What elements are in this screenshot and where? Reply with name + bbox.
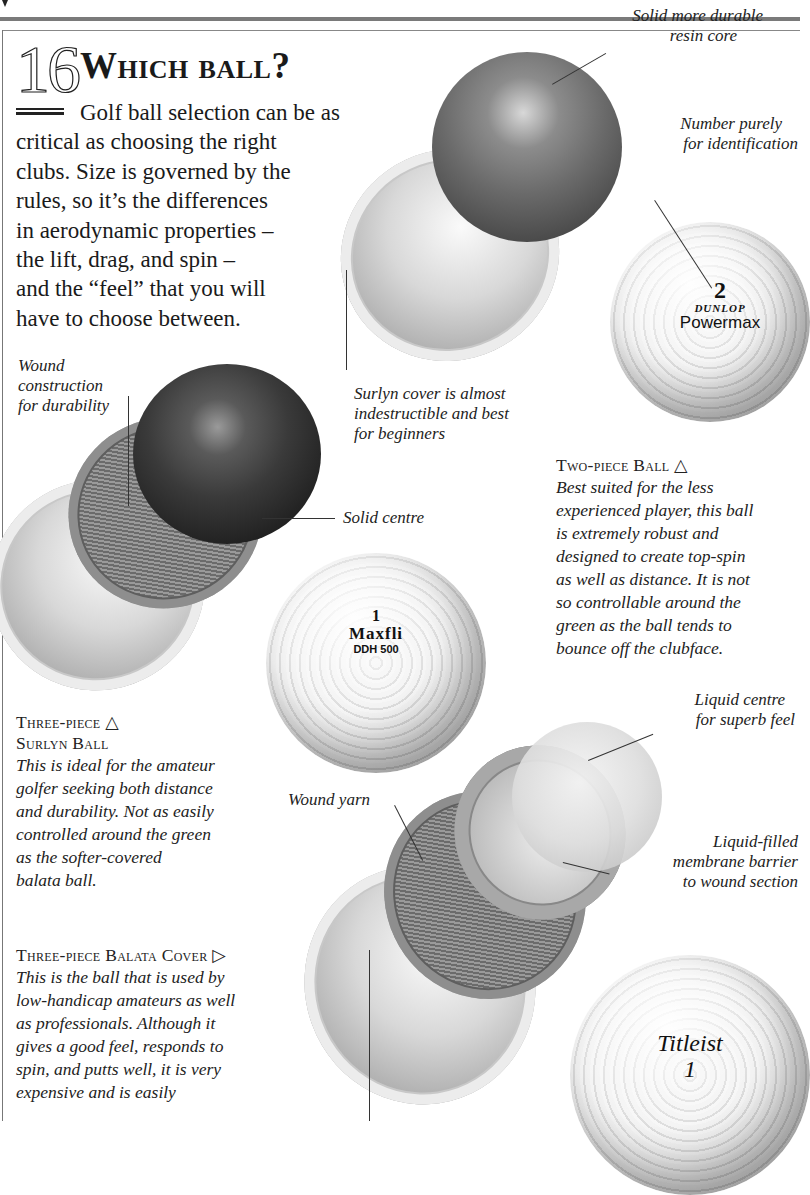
up-triangle-icon: △ (105, 712, 119, 732)
section-number: 16 (16, 38, 78, 100)
callout-number-identification: Number purely for identification (650, 114, 798, 154)
callout-solid-core: Solid more durable resin core (613, 6, 763, 46)
maxfli-ball-illustration (266, 553, 486, 773)
body-line: gives a good feel, responds to (16, 1035, 306, 1058)
dunlop-ball-print: 2 DUNLOP Powermax (660, 278, 780, 332)
body-line: bounce off the clubface. (556, 637, 800, 660)
maxfli-ball-print: 1 Maxfli DDH 500 (316, 608, 436, 655)
leader-line (128, 396, 129, 506)
body-line: golfer seeking both distance (16, 777, 286, 800)
intro-line: critical as choosing the right (16, 127, 376, 156)
two-piece-ball-description: Two-piece Ball △ Best suited for the les… (556, 455, 800, 660)
body-line: This is ideal for the amateur (16, 754, 286, 777)
callout-solid-centre: Solid centre (343, 508, 424, 528)
callout-membrane-barrier: Liquid-filled membrane barrier to wound … (606, 832, 798, 892)
ball-model: DDH 500 (316, 643, 436, 655)
body-line: and durability. Not as easily (16, 800, 286, 823)
callout-wound-yarn: Wound yarn (288, 790, 370, 810)
body-line: low-handicap amateurs as well (16, 989, 306, 1012)
three-piece-surlyn-description: Three-piece △ Surlyn Ball This is ideal … (16, 712, 286, 892)
solid-centre-illustration (133, 364, 321, 544)
three-piece-balata-heading: Three-piece Balata Cover ▷ (16, 945, 306, 966)
page-marker-icon (2, 0, 8, 7)
intro-line: Golf ball selection can be as (16, 98, 376, 127)
body-line: experienced player, this ball (556, 499, 800, 522)
intro-paragraph: Golf ball selection can be as critical a… (16, 98, 376, 333)
two-piece-resin-core-illustration (432, 52, 622, 242)
leader-line (262, 518, 335, 519)
two-piece-heading: Two-piece Ball △ (556, 455, 800, 476)
right-triangle-icon: ▷ (212, 945, 226, 965)
body-line: is extremely robust and (556, 522, 800, 545)
body-line: expensive and is easily (16, 1081, 306, 1104)
body-line: as professionals. Although it (16, 1012, 306, 1035)
intro-line: clubs. Size is governed by the (16, 157, 376, 186)
body-line: controlled around the green (16, 823, 286, 846)
titleist-ball-print: Titleist 1 (620, 1030, 760, 1082)
body-line: as well as distance. It is not (556, 568, 800, 591)
body-line: balata ball. (16, 869, 286, 892)
callout-surlyn-cover: Surlyn cover is almost indestructible an… (354, 384, 554, 444)
three-piece-surlyn-heading: Three-piece △ (16, 712, 286, 733)
intro-line: have to choose between. (16, 304, 376, 333)
ball-number: 2 (660, 278, 780, 302)
body-line: so controllable around the (556, 591, 800, 614)
ball-brand: Titleist (620, 1030, 760, 1056)
body-line: designed to create top-spin (556, 545, 800, 568)
body-line: Best suited for the less (556, 476, 800, 499)
body-line: This is the ball that is used by (16, 966, 306, 989)
intro-line: rules, so it’s the differences (16, 186, 376, 215)
intro-line: the lift, drag, and spin – (16, 245, 376, 274)
body-line: green as the ball tends to (556, 614, 800, 637)
callout-liquid-centre: Liquid centre for superb feel (640, 690, 795, 730)
page-title: Which ball? (80, 44, 290, 87)
three-piece-balata-description: Three-piece Balata Cover ▷ This is the b… (16, 945, 306, 1104)
body-line: spin, and putts well, it is very (16, 1058, 306, 1081)
ball-model: Powermax (660, 314, 780, 332)
ball-brand: Maxfli (316, 624, 436, 643)
intro-line: in aerodynamic properties – (16, 216, 376, 245)
callout-wound-construction: Wound construction for durability (18, 356, 158, 416)
leader-line (369, 950, 370, 1121)
body-line: as the softer-covered (16, 846, 286, 869)
up-triangle-icon: △ (674, 455, 688, 475)
leader-line (346, 270, 347, 370)
intro-line: and the “feel” that you will (16, 274, 376, 303)
ball-number: 1 (316, 608, 436, 624)
ball-number: 1 (620, 1056, 760, 1082)
